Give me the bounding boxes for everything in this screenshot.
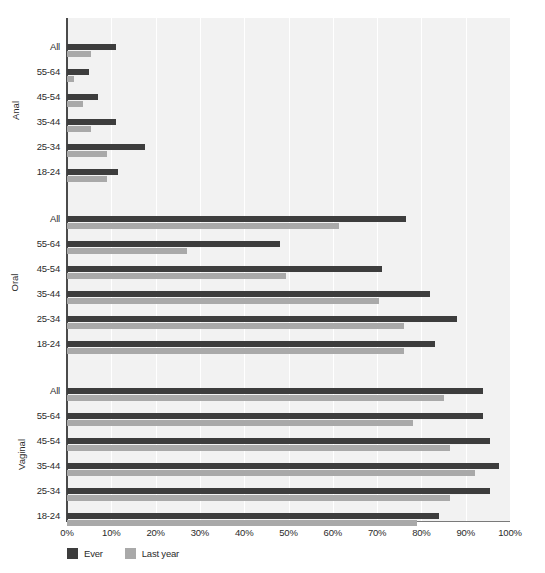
- bar-last-year-oral-35-44: [67, 298, 379, 304]
- bar-ever-oral-55-64: [67, 241, 280, 247]
- chart-legend: Ever Last year: [67, 548, 179, 559]
- bar-ever-anal-35-44: [67, 119, 116, 125]
- bar-ever-vaginal-35-44: [67, 463, 499, 469]
- y-tick-oral-55-64: 55-64: [0, 238, 60, 249]
- legend-item-ever: Ever: [67, 548, 103, 559]
- bar-ever-vaginal-All: [67, 388, 483, 394]
- y-tick-vaginal-35-44: 35-44: [0, 460, 60, 471]
- y-tick-anal-18-24: 18-24: [0, 166, 60, 177]
- bar-last-year-vaginal-18-24: [67, 520, 417, 526]
- y-tick-anal-25-34: 25-34: [0, 141, 60, 152]
- bar-last-year-oral-55-64: [67, 248, 187, 254]
- bar-ever-oral-45-54: [67, 266, 382, 272]
- bar-ever-oral-18-24: [67, 341, 435, 347]
- bar-last-year-oral-45-54: [67, 273, 286, 279]
- group-label-vaginal: Vaginal: [6, 449, 37, 460]
- bar-last-year-anal-18-24: [67, 176, 107, 182]
- x-tick-30%: 30%: [191, 527, 209, 538]
- bar-ever-anal-All: [67, 44, 116, 50]
- bar-ever-oral-35-44: [67, 291, 430, 297]
- y-tick-vaginal-25-34: 25-34: [0, 485, 60, 496]
- y-tick-vaginal-All: All: [0, 385, 60, 396]
- x-tick-80%: 80%: [412, 527, 430, 538]
- x-tick-70%: 70%: [368, 527, 386, 538]
- bar-last-year-vaginal-55-64: [67, 420, 413, 426]
- y-tick-vaginal-55-64: 55-64: [0, 410, 60, 421]
- legend-swatch-last-year: [125, 548, 136, 559]
- bar-last-year-oral-25-34: [67, 323, 404, 329]
- bar-last-year-vaginal-45-54: [67, 445, 450, 451]
- group-label-oral: Oral: [6, 277, 24, 288]
- bar-ever-vaginal-55-64: [67, 413, 483, 419]
- x-tick-90%: 90%: [456, 527, 474, 538]
- x-tick-0%: 0%: [60, 527, 73, 538]
- bar-last-year-anal-45-54: [67, 101, 83, 107]
- y-tick-anal-35-44: 35-44: [0, 116, 60, 127]
- y-tick-oral-18-24: 18-24: [0, 338, 60, 349]
- bar-last-year-oral-18-24: [67, 348, 404, 354]
- bar-ever-vaginal-25-34: [67, 488, 490, 494]
- y-tick-anal-55-64: 55-64: [0, 66, 60, 77]
- x-tick-60%: 60%: [324, 527, 342, 538]
- legend-label-ever: Ever: [84, 548, 103, 559]
- group-label-anal: Anal: [6, 105, 25, 116]
- y-tick-oral-25-34: 25-34: [0, 313, 60, 324]
- bar-ever-anal-25-34: [67, 144, 145, 150]
- y-tick-oral-45-54: 45-54: [0, 263, 60, 274]
- bar-last-year-oral-All: [67, 223, 339, 229]
- bar-last-year-anal-55-64: [67, 76, 74, 82]
- x-tick-20%: 20%: [146, 527, 164, 538]
- bar-ever-vaginal-18-24: [67, 513, 439, 519]
- bar-last-year-anal-All: [67, 51, 91, 57]
- y-tick-anal-All: All: [0, 41, 60, 52]
- legend-item-last-year: Last year: [125, 548, 179, 559]
- y-tick-anal-45-54: 45-54: [0, 91, 60, 102]
- grouped-bar-chart: All55-6445-5435-4425-3418-24All55-6445-5…: [0, 0, 545, 573]
- gridline-90%: [466, 18, 467, 522]
- bar-last-year-vaginal-25-34: [67, 495, 450, 501]
- x-tick-40%: 40%: [235, 527, 253, 538]
- y-tick-vaginal-18-24: 18-24: [0, 510, 60, 521]
- bar-ever-anal-45-54: [67, 94, 98, 100]
- x-tick-100%: 100%: [498, 527, 522, 538]
- legend-swatch-ever: [67, 548, 78, 559]
- bar-ever-vaginal-45-54: [67, 438, 490, 444]
- bar-last-year-vaginal-35-44: [67, 470, 475, 476]
- bar-last-year-anal-25-34: [67, 151, 107, 157]
- bar-ever-oral-All: [67, 216, 406, 222]
- bar-ever-oral-25-34: [67, 316, 457, 322]
- y-tick-vaginal-45-54: 45-54: [0, 435, 60, 446]
- bar-ever-anal-18-24: [67, 169, 118, 175]
- legend-label-last-year: Last year: [142, 548, 179, 559]
- bar-ever-anal-55-64: [67, 69, 89, 75]
- y-tick-oral-All: All: [0, 213, 60, 224]
- x-tick-50%: 50%: [279, 527, 297, 538]
- gridline-100%: [510, 18, 511, 522]
- x-tick-10%: 10%: [102, 527, 120, 538]
- bar-last-year-vaginal-All: [67, 395, 444, 401]
- bar-last-year-anal-35-44: [67, 126, 91, 132]
